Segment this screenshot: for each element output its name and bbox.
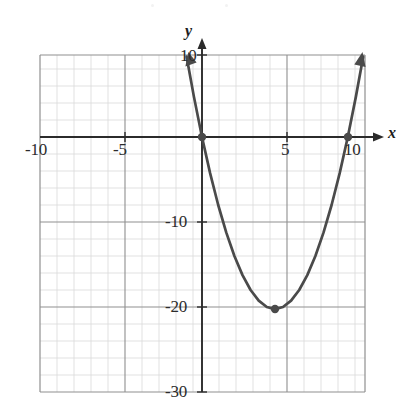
x-tick-label-neg10: -10: [25, 140, 47, 160]
point-x-intercept-left: [198, 133, 206, 141]
graph-figure: -10 -5 5 10 10 -10 -20 -30 y x: [0, 0, 406, 409]
x-tick-label-10: 10: [344, 140, 361, 160]
coordinate-plane: [0, 0, 406, 409]
y-axis-arrow-icon: [198, 38, 207, 49]
y-axis-label: y: [185, 22, 192, 40]
point-vertex: [271, 305, 279, 313]
scan-speck: [225, 4, 228, 7]
y-tick-label-neg30: -30: [165, 382, 187, 402]
x-axis-label: x: [388, 124, 396, 142]
y-tick-label-neg20: -20: [165, 297, 187, 317]
y-tick-label-10: 10: [180, 46, 197, 66]
y-tick-label-neg10: -10: [165, 212, 187, 232]
x-axis-arrow-icon: [373, 133, 384, 142]
x-tick-label-neg5: -5: [113, 140, 127, 160]
scan-speck: [151, 4, 154, 7]
x-tick-label-5: 5: [281, 140, 289, 160]
